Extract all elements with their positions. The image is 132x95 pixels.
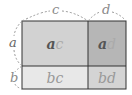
cell-ad-first: a [98,36,107,52]
cell-bc-second: c [56,70,64,86]
label-b: b [10,70,18,85]
cell-bd-first: b [98,70,107,86]
cell-bc: bc [22,66,88,89]
label-c: c [52,2,59,17]
cell-ac-second: c [56,36,64,52]
label-d: d [102,2,110,17]
cell-ac-first: a [47,36,56,52]
cell-ad-second: d [107,36,116,52]
cell-bd: bd [88,66,126,89]
label-a: a [9,35,17,50]
cell-ac: ac [22,21,88,66]
cell-ad: ad [88,21,126,66]
cell-bd-second: d [107,70,116,86]
cell-bc-first: b [47,70,56,86]
